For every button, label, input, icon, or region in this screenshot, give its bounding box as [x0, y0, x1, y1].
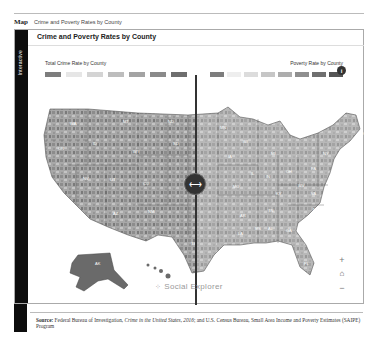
- interactive-sidebar: Interactive: [15, 30, 28, 303]
- crime-legend-swatch: [171, 72, 187, 77]
- crime-legend-swatch: [129, 72, 145, 77]
- sidebar-footer-block: [14, 304, 27, 332]
- info-button[interactable]: i: [337, 66, 346, 75]
- crime-legend-title: Total Crime Rate by County: [45, 60, 187, 66]
- crime-legend-swatches: [45, 72, 187, 77]
- state-label: IA: [228, 154, 232, 159]
- crime-legend: Total Crime Rate by County: [45, 60, 187, 77]
- state-label: IN: [266, 174, 270, 179]
- map-frame: Interactive Crime and Poverty Rates by C…: [14, 29, 364, 304]
- state-label: AL: [268, 226, 274, 231]
- state-label: WA: [70, 121, 77, 126]
- state-label: MN: [220, 125, 226, 130]
- state-label: TN: [268, 208, 273, 213]
- state-label: LA: [238, 231, 243, 236]
- state-label: WY: [133, 149, 140, 154]
- source-publication: Crime in the United States, 2016: [124, 317, 193, 323]
- state-label: NM: [148, 209, 154, 214]
- state-label: KY: [276, 191, 282, 196]
- state-label: OR: [58, 146, 64, 151]
- state-label: FL: [304, 261, 309, 266]
- header-subtitle: Crime and Poverty Rates by County: [34, 19, 122, 25]
- poverty-legend-swatch: [312, 72, 326, 77]
- social-explorer-logo: ⁘ Social Explorer: [155, 282, 223, 291]
- poverty-legend-swatch: [295, 72, 309, 77]
- crime-legend-swatch: [66, 72, 82, 77]
- sidebar-label: Interactive: [17, 50, 23, 75]
- swipe-handle-button[interactable]: ⟷: [184, 173, 206, 195]
- state-label: ND: [168, 119, 174, 124]
- state-label: NY: [323, 151, 329, 156]
- crime-legend-swatch: [87, 72, 103, 77]
- poverty-legend-swatches: [210, 72, 343, 77]
- brand-name: Social Explorer: [164, 282, 222, 291]
- poverty-legend-title: Poverty Rate by County: [210, 60, 343, 66]
- source-divider: [30, 312, 363, 313]
- crime-legend-swatch: [150, 72, 166, 77]
- title-divider: [28, 45, 364, 46]
- state-label: SD: [173, 141, 179, 146]
- state-label: MO: [233, 184, 239, 189]
- page-header: Map Crime and Poverty Rates by County: [14, 13, 364, 29]
- state-label: UT: [110, 177, 116, 182]
- state-label: WV: [298, 183, 305, 188]
- state-label: NC: [313, 207, 319, 212]
- state-label: AR: [240, 213, 246, 218]
- crime-legend-swatch: [108, 72, 124, 77]
- swap-arrows-icon: ⟷: [189, 179, 202, 189]
- zoom-out-button[interactable]: −: [339, 284, 344, 292]
- poverty-legend-swatch: [278, 72, 292, 77]
- state-label: AK: [95, 261, 101, 266]
- state-label: WI: [243, 139, 248, 144]
- state-label: AZ: [113, 211, 119, 216]
- state-label: MS: [255, 226, 261, 231]
- state-label: ME: [358, 131, 364, 136]
- poverty-legend-swatch: [244, 72, 258, 77]
- poverty-legend-swatch: [210, 72, 224, 77]
- crime-legend-swatch: [45, 72, 61, 77]
- state-label: CO: [143, 181, 149, 186]
- state-label: GA: [286, 228, 292, 233]
- info-icon: i: [341, 68, 343, 74]
- zoom-in-button[interactable]: +: [339, 256, 344, 264]
- header-tag: Map: [14, 18, 28, 26]
- state-label: MT: [123, 119, 129, 124]
- poverty-legend-swatch: [227, 72, 241, 77]
- source-note: Source: Federal Bureau of Investigation,…: [36, 317, 362, 329]
- home-button[interactable]: ⌂: [340, 270, 345, 278]
- state-label: VA: [311, 191, 316, 196]
- poverty-legend: Poverty Rate by County: [210, 60, 343, 77]
- state-label: NV: [83, 176, 89, 181]
- panel-title: Crime and Poverty Rates by County: [37, 33, 156, 40]
- source-text-1: Federal Bureau of Investigation,: [53, 317, 124, 323]
- poverty-legend-swatch: [261, 72, 275, 77]
- map-zoom-controls: + ⌂ −: [337, 256, 347, 292]
- state-label: ID: [93, 141, 97, 146]
- logo-icon: ⁘: [155, 283, 161, 291]
- state-label: PA: [311, 166, 316, 171]
- state-label: OH: [286, 169, 292, 174]
- state-label: MI: [271, 151, 275, 156]
